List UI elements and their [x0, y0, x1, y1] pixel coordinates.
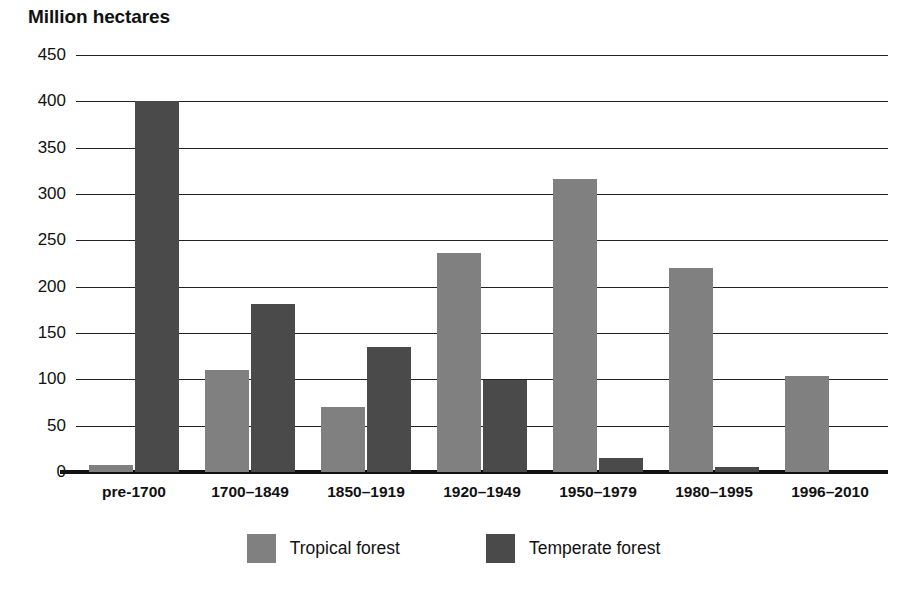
bar[interactable]	[483, 380, 527, 472]
y-axis-tick-label: 350	[6, 138, 66, 158]
bar-group	[553, 55, 643, 472]
y-axis-tick-labels: 450400350300250200150100500	[0, 55, 66, 472]
y-axis-tick-label: 50	[6, 416, 66, 436]
x-axis-tick-label: 1700–1849	[211, 483, 289, 501]
chart-title: Million hectares	[28, 6, 170, 28]
chart-legend: Tropical forestTemperate forest	[0, 528, 907, 568]
legend-entry[interactable]: Temperate forest	[486, 534, 660, 563]
y-axis-tick-label: 100	[6, 369, 66, 389]
y-axis-tick-label: 250	[6, 230, 66, 250]
x-axis-tick-labels: pre-17001700–18491850–19191920–19491950–…	[76, 483, 888, 509]
y-axis-tick-label: 200	[6, 277, 66, 297]
bar[interactable]	[599, 458, 643, 472]
bar-group	[321, 55, 411, 472]
bar-group	[785, 55, 875, 472]
x-axis-tick-label: 1996–2010	[791, 483, 869, 501]
bar[interactable]	[135, 101, 179, 472]
legend-swatch-icon	[247, 534, 276, 563]
x-axis-tick-label: 1850–1919	[327, 483, 405, 501]
bar-group	[437, 55, 527, 472]
legend-entry[interactable]: Tropical forest	[247, 534, 400, 563]
bars-layer	[76, 55, 888, 472]
bar-group	[205, 55, 295, 472]
bar[interactable]	[251, 304, 295, 472]
legend-label: Temperate forest	[529, 538, 660, 559]
y-axis-tick-label: 450	[6, 45, 66, 65]
bar[interactable]	[321, 407, 365, 472]
bar[interactable]	[553, 179, 597, 472]
x-axis-tick-label: 1920–1949	[443, 483, 521, 501]
bar[interactable]	[205, 370, 249, 472]
bar-group	[89, 55, 179, 472]
x-axis-tick-label: 1980–1995	[675, 483, 753, 501]
bar[interactable]	[669, 268, 713, 472]
x-axis-tick-label: pre-1700	[102, 483, 166, 501]
y-axis-tick-label: 150	[6, 323, 66, 343]
y-axis-tick-label: 0	[6, 462, 66, 482]
y-axis-tick-label: 400	[6, 91, 66, 111]
legend-swatch-icon	[486, 534, 515, 563]
bar[interactable]	[89, 465, 133, 472]
bar-chart: Million hectares 45040035030025020015010…	[0, 0, 907, 607]
x-axis-tick-label: 1950–1979	[559, 483, 637, 501]
bar[interactable]	[785, 376, 829, 472]
bar-group	[669, 55, 759, 472]
bar[interactable]	[437, 253, 481, 472]
bar[interactable]	[367, 347, 411, 472]
bar[interactable]	[715, 467, 759, 472]
y-axis-tick-label: 300	[6, 184, 66, 204]
legend-label: Tropical forest	[290, 538, 400, 559]
